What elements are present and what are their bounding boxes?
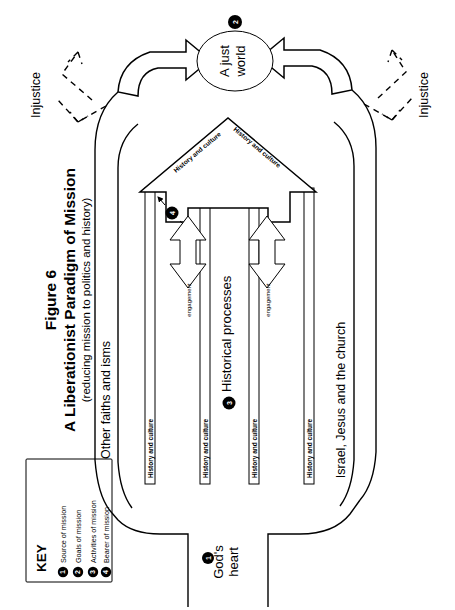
band-outer-right: History and culture	[304, 188, 314, 484]
key-label-4: Bearer of mission	[102, 507, 111, 563]
key-badge-4: 4	[102, 570, 109, 574]
page-title: A Liberationist Paradigm of Mission	[61, 168, 78, 432]
other-faiths-label: Other faiths and isms	[99, 341, 113, 459]
key-label-3: Activities of mission	[89, 500, 98, 563]
figure-canvas: Figure 6 A Liberationist Paradigm of Mis…	[0, 0, 455, 610]
page-subtitle: (reducing mission to politics and histor…	[80, 198, 92, 403]
bearer-badge: 4	[169, 211, 176, 215]
engagement-left-label: engagement	[186, 283, 192, 317]
band-outer-right-label: History and culture	[306, 418, 314, 478]
band-inner-left: History and culture	[200, 188, 210, 484]
band-outer-left: History and culture	[145, 188, 155, 484]
key-label-1: Source of mission	[59, 506, 68, 563]
band-inner-right-label: History and culture	[251, 418, 259, 478]
key-box: KEY 1 Source of mission 2 Goals of missi…	[26, 459, 112, 582]
goal-badge: 2	[232, 20, 239, 24]
source-label-line2: heart	[226, 547, 241, 577]
goal-label-line1: A just	[217, 45, 232, 77]
source-label-line1: God's	[211, 545, 226, 579]
injustice-right-label: Injustice	[417, 72, 431, 118]
key-heading: KEY	[34, 544, 49, 572]
activities-badge: 3	[226, 401, 233, 405]
band-outer-left-label: History and culture	[147, 418, 155, 478]
activities-marker: 3 Historical processes	[219, 275, 236, 409]
band-inner-left-label: History and culture	[202, 418, 210, 478]
israel-church-label: Israel, Jesus and the church	[334, 322, 348, 478]
goal-label-line2: world	[233, 45, 248, 77]
key-label-2: Goals of mission	[74, 510, 83, 563]
figure-number: Figure 6	[42, 269, 59, 330]
engagement-right-label: engagement	[265, 283, 271, 317]
liberationist-paradigm-diagram: Figure 6 A Liberationist Paradigm of Mis…	[0, 0, 455, 610]
injustice-left-label: Injustice	[29, 72, 43, 118]
key-badge-2: 2	[74, 570, 81, 574]
key-badge-3: 3	[89, 570, 96, 574]
key-badge-1: 1	[59, 570, 66, 574]
activities-label: Historical processes	[219, 275, 234, 392]
